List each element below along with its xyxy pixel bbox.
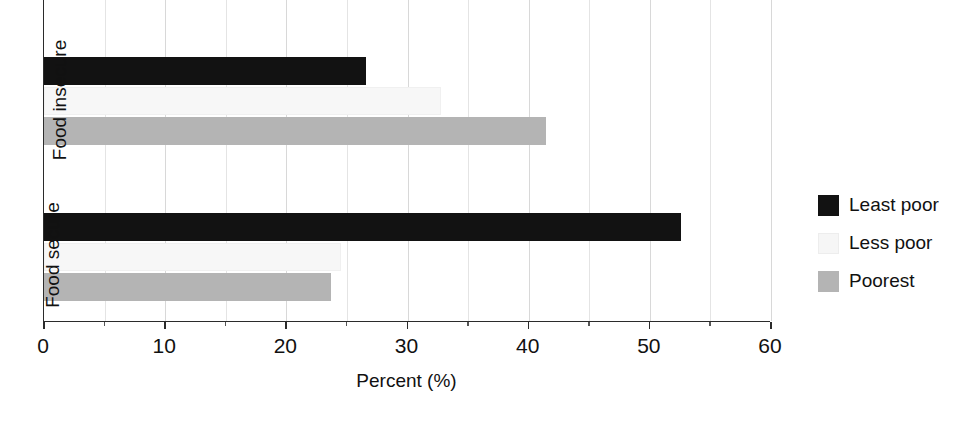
legend-label-poorest: Poorest: [849, 270, 914, 292]
xtick-label-10: 10: [152, 334, 175, 358]
xtick-label-40: 40: [516, 334, 539, 358]
ytick-label-food-insecure: Food insecure: [0, 10, 36, 190]
bar-chart-figure: Food insecure Food secure Percent (%) Le…: [0, 0, 962, 433]
bar-food-secure-least-poor: [44, 213, 681, 241]
gridline-25: [347, 0, 348, 321]
xtick-mark-10: [164, 322, 166, 329]
gridline-55: [710, 0, 711, 321]
gridline-60: [771, 0, 772, 321]
plot-area: [43, 0, 770, 322]
xtick-minor-45: [588, 322, 590, 326]
gridline-30: [408, 0, 409, 321]
xtick-mark-50: [649, 322, 651, 329]
legend-label-less-poor: Less poor: [849, 232, 932, 254]
xaxis-title: Percent (%): [43, 370, 770, 392]
xtick-minor-25: [346, 322, 348, 326]
ytick-label-food-secure: Food secure: [0, 175, 36, 335]
legend-swatch-less-poor: [818, 233, 839, 254]
legend-swatch-least-poor: [818, 195, 839, 216]
legend-swatch-poorest: [818, 271, 839, 292]
gridline-45: [589, 0, 590, 321]
legend-item-less-poor: Less poor: [818, 224, 958, 262]
xtick-minor-55: [709, 322, 711, 326]
gridline-40: [529, 0, 530, 321]
xtick-minor-35: [467, 322, 469, 326]
xtick-label-60: 60: [758, 334, 781, 358]
xtick-minor-15: [225, 322, 227, 326]
xtick-mark-30: [407, 322, 409, 329]
legend-label-least-poor: Least poor: [849, 194, 939, 216]
gridline-35: [468, 0, 469, 321]
xtick-minor-5: [104, 322, 106, 326]
xtick-mark-0: [43, 322, 45, 329]
ytick-label-food-insecure-text: Food insecure: [0, 40, 150, 160]
xtick-label-20: 20: [274, 334, 297, 358]
xtick-mark-40: [528, 322, 530, 329]
xtick-label-30: 30: [395, 334, 418, 358]
gridline-50: [650, 0, 651, 321]
xtick-label-0: 0: [37, 334, 49, 358]
legend-item-poorest: Poorest: [818, 262, 958, 300]
xtick-mark-20: [285, 322, 287, 329]
ytick-label-food-secure-text: Food secure: [0, 202, 133, 308]
chart-legend: Least poor Less poor Poorest: [818, 186, 958, 300]
xtick-label-50: 50: [637, 334, 660, 358]
xtick-mark-60: [770, 322, 772, 329]
legend-item-least-poor: Least poor: [818, 186, 958, 224]
